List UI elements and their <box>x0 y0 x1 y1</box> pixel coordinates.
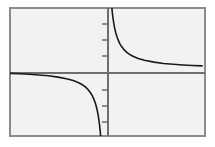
function-plot-canvas <box>0 0 215 147</box>
function-plot-figure: y = 1/x <box>0 0 215 147</box>
